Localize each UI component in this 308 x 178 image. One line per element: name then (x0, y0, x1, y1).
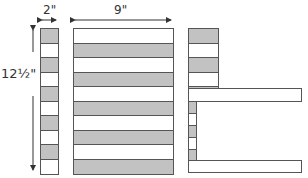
right-long-strip-bottom (188, 160, 302, 173)
left-strip-cell (40, 86, 59, 102)
left-strip-cell (40, 115, 59, 131)
left-strip-cell (40, 159, 59, 175)
height-label: 12½" (1, 66, 36, 81)
main-strip (73, 57, 174, 73)
left-strip-column (40, 28, 59, 173)
left-strip-cell (40, 144, 59, 160)
right-long-strip-middle (188, 88, 302, 102)
width-label-9in: 9" (114, 3, 127, 17)
width-label-2in: 2" (43, 3, 56, 17)
main-strip (73, 86, 174, 102)
main-strip-block (73, 28, 174, 173)
main-strip (73, 28, 174, 44)
right-top-cell (188, 57, 219, 73)
right-assembled-shape (188, 28, 302, 173)
left-strip-cell (40, 57, 59, 73)
right-top-cell (188, 28, 219, 44)
main-strip (73, 144, 174, 160)
main-strip (73, 115, 174, 131)
main-strip (73, 159, 174, 175)
left-strip-cell (40, 28, 59, 44)
